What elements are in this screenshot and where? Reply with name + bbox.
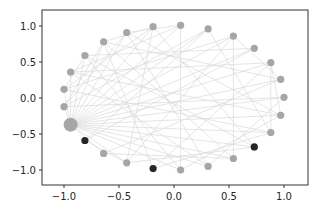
highlighted-node (81, 137, 88, 144)
hub-node (64, 118, 78, 132)
edge (181, 115, 281, 170)
edge (64, 29, 208, 107)
graph-node (123, 29, 130, 36)
edge (85, 48, 254, 140)
x-tick-label: 1.0 (276, 191, 292, 202)
y-tick-label: −1.0 (12, 165, 36, 176)
graph-node (100, 150, 107, 157)
graph-node (230, 32, 237, 39)
graph-node (251, 45, 258, 52)
graph-node (267, 129, 274, 136)
x-axis: −1.0−0.50.00.51.0 (52, 185, 292, 202)
x-tick-label: −1.0 (52, 191, 76, 202)
graph-node (177, 22, 184, 29)
graph-node (150, 23, 157, 30)
graph-node (267, 59, 274, 66)
graph-node (60, 103, 67, 110)
network-chart: −1.0−0.50.00.51.0 1.00.50.0−0.5−1.0 (0, 0, 325, 213)
graph-node (280, 94, 287, 101)
edge (153, 27, 254, 147)
graph-node (205, 163, 212, 170)
edge (127, 27, 153, 163)
graph-node (230, 155, 237, 162)
y-tick-label: −0.5 (12, 129, 36, 140)
plot-frame (42, 10, 308, 185)
x-tick-label: 0.0 (166, 191, 182, 202)
highlighted-node (251, 143, 258, 150)
graph-node (100, 38, 107, 45)
x-tick-label: 0.5 (221, 191, 237, 202)
y-tick-label: 1.0 (20, 21, 36, 32)
y-tick-label: 0.5 (20, 57, 36, 68)
graph-node (177, 166, 184, 173)
x-tick-label: −0.5 (107, 191, 131, 202)
graph-node (123, 159, 130, 166)
edge (233, 36, 280, 79)
graph-node (60, 86, 67, 93)
edge (71, 36, 234, 125)
highlighted-node (150, 165, 157, 172)
y-axis: 1.00.50.0−0.5−1.0 (12, 21, 42, 176)
graph-node (81, 52, 88, 59)
edge (104, 42, 154, 169)
graph-node (67, 68, 74, 75)
graph-node (205, 25, 212, 32)
graph-node (277, 76, 284, 83)
edge (271, 63, 281, 116)
edge (71, 125, 209, 167)
graph-node (277, 112, 284, 119)
y-tick-label: 0.0 (20, 93, 36, 104)
nodes-layer (60, 22, 287, 174)
